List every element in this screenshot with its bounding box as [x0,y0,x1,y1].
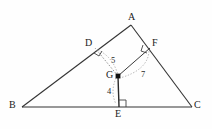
segment-ge [118,76,119,107]
right-angle-mark-e [119,100,126,107]
side-ac [131,25,192,107]
vertex-label-e: E [115,109,121,119]
vertex-label-d: D [85,38,92,48]
measure-label-gf: 7 [141,70,145,79]
figure-canvas [0,0,212,129]
vertex-label-f: F [152,38,158,48]
vertex-label-b: B [9,100,16,110]
geometry-figure: A B C D E F G 5 7 4 [0,0,212,129]
point-g-dot [116,74,121,79]
vertex-label-a: A [128,12,135,22]
side-ab [22,25,131,107]
vertex-label-c: C [194,100,201,110]
vertex-label-g: G [106,70,113,80]
measure-label-gd: 5 [111,56,115,65]
measure-label-ge: 4 [107,87,111,96]
arc-g-to-e [113,78,116,104]
